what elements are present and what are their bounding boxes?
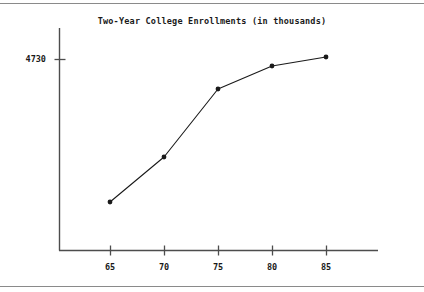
chart-axes [59,28,378,251]
x-axis-tick-label: 65 [98,262,122,272]
data-point-marker [324,55,329,60]
data-point-marker [108,200,113,205]
data-point-marker [216,87,221,92]
data-point-marker [270,64,275,69]
x-axis-tick-label: 70 [152,262,176,272]
line-chart-plot [0,0,424,292]
chart-page: Two-Year College Enrollments (in thousan… [0,0,424,292]
x-axis-tick-label: 75 [206,262,230,272]
y-axis-tick-label: 4730 [0,54,46,64]
data-point-markers [108,55,329,205]
data-series-line [110,57,326,202]
x-axis-tick-label: 85 [314,262,338,272]
data-point-marker [162,155,167,160]
x-axis-tick-label: 80 [260,262,284,272]
